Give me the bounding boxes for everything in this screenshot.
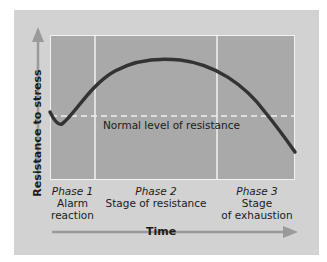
y-axis-label: Resistance to stress [31, 69, 44, 197]
x-axis-arrow-head-icon [283, 226, 298, 238]
phase-1-line1: Alarm [50, 197, 95, 209]
phase-3-line2: of exhaustion [217, 209, 297, 221]
x-axis-label: Time [146, 225, 176, 238]
phase-2-line1: Stage of resistance [100, 197, 212, 209]
normal-level-label: Normal level of resistance [103, 119, 240, 131]
phase-1-line2: reaction [50, 209, 95, 221]
resistance-curve [50, 59, 295, 152]
phase-2-label: Phase 2 Stage of resistance [100, 185, 212, 209]
phase-3-line1: Stage [217, 197, 297, 209]
phase-3-label: Phase 3 Stage of exhaustion [217, 185, 297, 221]
diagram-graphics [0, 0, 327, 262]
phase-2-title: Phase 2 [100, 185, 212, 197]
y-axis-arrow-head-icon [32, 27, 44, 42]
phase-1-title: Phase 1 [50, 185, 95, 197]
phase-1-label: Phase 1 Alarm reaction [50, 185, 95, 221]
phase-3-title: Phase 3 [217, 185, 297, 197]
